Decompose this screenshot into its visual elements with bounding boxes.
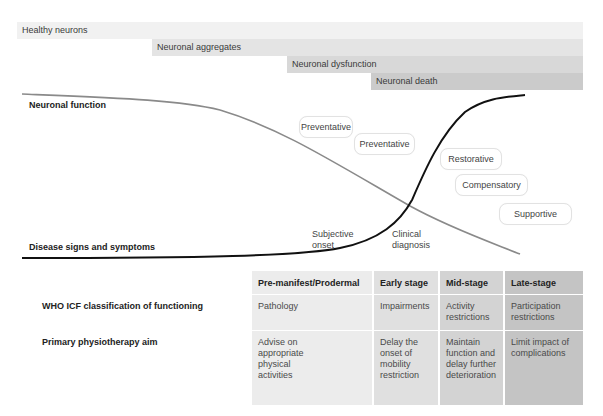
neuronal-function-label: Neuronal function — [29, 100, 106, 110]
intervention-supportive: Supportive — [499, 203, 572, 225]
col-header-early-stage: Early stage — [374, 271, 438, 294]
cell-physio-aim-mid: Maintain function and delay further dete… — [440, 331, 503, 405]
col-header-pre-manifest: Pre-manifest/Prodermal — [252, 271, 372, 294]
row-label-who-icf: WHO ICF classification of functioning — [42, 301, 203, 311]
cell-who-icf-mid: Activity restrictions — [440, 295, 503, 330]
cell-who-icf-pre-manifest: Pathology — [252, 295, 372, 330]
col-header-mid-stage: Mid-stage — [440, 271, 503, 294]
cell-who-icf-early: Impairments — [374, 295, 438, 330]
row-label-physio-aim: Primary physiotherapy aim — [42, 337, 158, 347]
clinical-diagnosis-label: Clinical diagnosis — [392, 229, 430, 251]
intervention-preventative-1: Preventative — [299, 116, 353, 138]
cell-physio-aim-pre-manifest: Advise on appropriate physical activitie… — [252, 331, 372, 405]
intervention-preventative-2: Preventative — [354, 133, 415, 155]
col-header-late-stage: Late-stage — [505, 271, 583, 294]
subjective-onset-label: Subjective onset — [312, 229, 354, 251]
disease-signs-label: Disease signs and symptoms — [29, 242, 155, 252]
cell-physio-aim-early: Delay the onset of mobility restriction — [374, 331, 438, 405]
cell-who-icf-late: Participation restrictions — [505, 295, 583, 330]
cell-physio-aim-late: Limit impact of complications — [505, 331, 583, 405]
intervention-compensatory: Compensatory — [455, 174, 528, 196]
disease-signs-curve — [22, 95, 525, 258]
neuronal-function-curve — [22, 94, 520, 254]
intervention-restorative: Restorative — [440, 148, 502, 170]
